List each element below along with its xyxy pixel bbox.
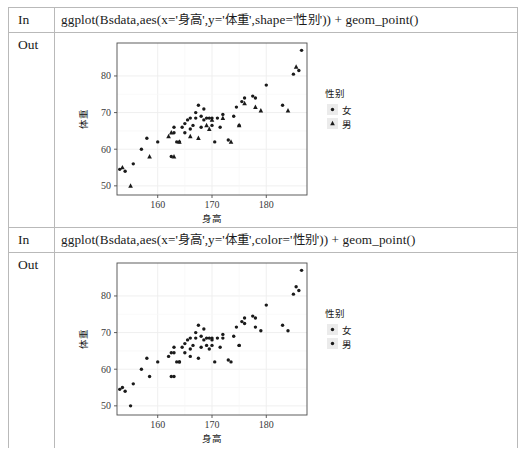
svg-text:60: 60: [101, 364, 111, 375]
svg-text:性别: 性别: [325, 88, 345, 99]
code-line-1[interactable]: ggplot(Bsdata,aes(x='身高',y='体重',shape='性…: [55, 8, 517, 29]
out-cell-1: 16017018050607080身高体重性别女男: [55, 33, 517, 227]
out-label-2: Out: [18, 256, 38, 273]
svg-text:160: 160: [150, 199, 165, 210]
code-mid1-1: ',y=': [202, 12, 225, 27]
in-cell-2[interactable]: ggplot(Bsdata,aes(x='身高',y='体重',color='性…: [55, 228, 517, 252]
svg-text:180: 180: [259, 419, 274, 430]
in-cell-1[interactable]: ggplot(Bsdata,aes(x='身高',y='体重',shape='性…: [55, 8, 517, 32]
svg-text:70: 70: [101, 327, 111, 338]
code-suffix-1: ')) + geom_point(): [320, 12, 419, 27]
in-row-1: In ggplot(Bsdata,aes(x='身高',y='体重',shape…: [9, 8, 517, 33]
out-row-2: Out 16017018050607080身高体重性别女男: [9, 253, 517, 448]
out-row-1: Out 16017018050607080身高体重性别女男: [9, 33, 517, 228]
out-cell-2: 16017018050607080身高体重性别女男: [55, 253, 517, 448]
code-x-var-2: 身高: [178, 232, 202, 247]
code-group-var-1: 性别: [295, 12, 319, 27]
scatter-plot-svg-1: 16017018050607080身高体重性别女男: [55, 33, 517, 228]
svg-text:男: 男: [342, 339, 352, 350]
code-prefix-2: ggplot(Bsdata,aes(x=': [61, 232, 178, 247]
out-gutter-1: Out: [9, 33, 55, 227]
out-gutter-2: Out: [9, 253, 55, 448]
svg-text:60: 60: [101, 144, 111, 155]
code-mid1-2: ',y=': [202, 232, 225, 247]
svg-text:女: 女: [342, 325, 352, 336]
svg-text:80: 80: [101, 290, 111, 301]
code-mid2-2: ',color=': [249, 232, 292, 247]
code-mid2-1: ',shape=': [249, 12, 295, 27]
out-label-1: Out: [18, 36, 38, 53]
svg-text:体重: 体重: [78, 109, 89, 129]
svg-text:身高: 身高: [202, 213, 222, 224]
svg-text:80: 80: [101, 70, 111, 81]
code-line-2[interactable]: ggplot(Bsdata,aes(x='身高',y='体重',color='性…: [55, 228, 517, 249]
svg-text:170: 170: [205, 419, 220, 430]
in-label-1: In: [18, 11, 29, 28]
svg-text:50: 50: [101, 400, 111, 411]
svg-text:身高: 身高: [202, 433, 222, 444]
code-x-var-1: 身高: [178, 12, 202, 27]
code-suffix-2: ')) + geom_point(): [317, 232, 416, 247]
svg-text:男: 男: [342, 119, 352, 130]
code-group-var-2: 性别: [293, 232, 317, 247]
svg-text:70: 70: [101, 107, 111, 118]
notebook-table: In ggplot(Bsdata,aes(x='身高',y='体重',shape…: [8, 7, 518, 448]
scatter-plot-svg-2: 16017018050607080身高体重性别女男: [55, 253, 517, 448]
in-gutter-1: In: [9, 8, 55, 32]
scatter-plot-1: 16017018050607080身高体重性别女男: [55, 33, 517, 227]
in-gutter-2: In: [9, 228, 55, 252]
svg-text:50: 50: [101, 180, 111, 191]
svg-text:180: 180: [259, 199, 274, 210]
code-prefix-1: ggplot(Bsdata,aes(x=': [61, 12, 178, 27]
svg-text:160: 160: [150, 419, 165, 430]
in-label-2: In: [18, 231, 29, 248]
scatter-plot-2: 16017018050607080身高体重性别女男: [55, 253, 517, 448]
code-y-var-1: 体重: [225, 12, 249, 27]
svg-text:性别: 性别: [325, 308, 345, 319]
svg-text:170: 170: [205, 199, 220, 210]
svg-text:女: 女: [342, 105, 352, 116]
svg-text:体重: 体重: [78, 329, 89, 349]
code-y-var-2: 体重: [225, 232, 249, 247]
in-row-2: In ggplot(Bsdata,aes(x='身高',y='体重',color…: [9, 228, 517, 253]
